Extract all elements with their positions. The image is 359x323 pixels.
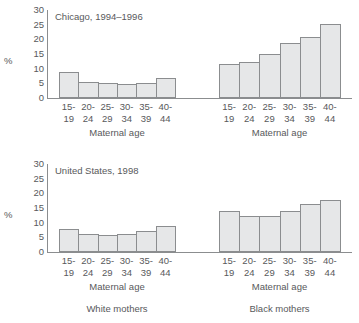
x-tick-label: 20-24 [78, 255, 97, 279]
group-caption-black-mothers: Black mothers [209, 304, 350, 314]
y-tick-10: 10 [33, 64, 44, 74]
x-tick-label: 15-19 [219, 101, 239, 125]
bar [98, 83, 118, 98]
bar-group-chicago-black [219, 10, 340, 98]
x-tick-label: 20-24 [239, 101, 259, 125]
x-tick-label: 25-29 [98, 255, 117, 279]
y-tick-15: 15 [33, 203, 44, 213]
y-tick-5: 5 [39, 79, 44, 89]
x-tick-label: 30-34 [117, 255, 136, 279]
x-tick-label: 35-39 [300, 101, 320, 125]
x-tick-labels-chicago-black: 15-19 20-24 25-29 30-34 35-39 40-44 [219, 101, 340, 127]
x-tick-label: 25-29 [259, 255, 279, 279]
y-axis-ticks-united-states: 30 25 20 15 10 5 0 [22, 164, 44, 252]
panel-title-united-states: United States, 1998 [55, 166, 138, 176]
bar [156, 78, 176, 98]
x-tick-label: 25-29 [98, 101, 117, 125]
x-tick-label: 25-29 [259, 101, 279, 125]
y-tick-30: 30 [33, 5, 44, 15]
plot-area-united-states: % 30 25 20 15 10 5 0 [0, 158, 359, 258]
bar [259, 216, 280, 252]
x-axis-caption-chicago-black: Maternal age [219, 128, 340, 138]
x-tick-label: 40-44 [320, 255, 340, 279]
x-tick-label: 35-39 [300, 255, 320, 279]
x-tick-label: 30-34 [280, 255, 300, 279]
bar [219, 64, 240, 98]
x-tick-label: 20-24 [239, 255, 259, 279]
bar [280, 211, 301, 252]
bar [59, 72, 79, 98]
plot-area-chicago: % 30 25 20 15 10 5 0 [0, 4, 359, 104]
bar [239, 62, 260, 98]
y-tick-25: 25 [33, 174, 44, 184]
y-tick-30: 30 [33, 159, 44, 169]
y-tick-0: 0 [39, 93, 44, 103]
chart-panel-united-states: % 30 25 20 15 10 5 0 [0, 158, 359, 321]
y-tick-5: 5 [39, 233, 44, 243]
bar [78, 82, 98, 98]
y-tick-0: 0 [39, 247, 44, 257]
x-axis-caption-us-black: Maternal age [219, 282, 340, 292]
bar [300, 204, 321, 252]
bar [156, 226, 176, 252]
y-axis-ticks-chicago: 30 25 20 15 10 5 0 [22, 10, 44, 98]
x-tick-labels-us-white: 15-19 20-24 25-29 30-34 35-39 40-44 [59, 255, 175, 281]
x-tick-label: 40-44 [156, 255, 175, 279]
chart-panel-chicago: % 30 25 20 15 10 5 0 [0, 4, 359, 152]
x-tick-label: 30-34 [280, 101, 300, 125]
x-tick-label: 35-39 [136, 101, 155, 125]
y-axis-label-percent: % [4, 56, 12, 66]
x-tick-label: 20-24 [78, 101, 97, 125]
bar [98, 235, 118, 252]
y-tick-10: 10 [33, 218, 44, 228]
x-tick-label: 15-19 [59, 101, 78, 125]
figure-teen-pregnancy-by-maternal-age: % 30 25 20 15 10 5 0 [0, 0, 359, 323]
x-tick-labels-chicago-white: 15-19 20-24 25-29 30-34 35-39 40-44 [59, 101, 175, 127]
x-tick-labels-us-black: 15-19 20-24 25-29 30-34 35-39 40-44 [219, 255, 340, 281]
y-tick-20: 20 [33, 35, 44, 45]
panel-title-chicago: Chicago, 1994–1996 [55, 12, 143, 22]
x-tick-label: 40-44 [320, 101, 340, 125]
x-tick-label: 35-39 [136, 255, 155, 279]
bar [259, 54, 280, 98]
bar-group-chicago-white [59, 10, 175, 98]
group-caption-white-mothers: White mothers [49, 304, 185, 314]
y-axis-label-percent: % [4, 210, 12, 220]
x-tick-label: 15-19 [59, 255, 78, 279]
bars-area-united-states [47, 164, 352, 252]
bars-area-chicago [47, 10, 352, 98]
bar [78, 234, 98, 252]
x-axis-line-united-states [47, 252, 352, 253]
bar [300, 37, 321, 98]
y-tick-20: 20 [33, 189, 44, 199]
bar [280, 43, 301, 98]
x-axis-caption-us-white: Maternal age [59, 282, 175, 292]
bar [320, 200, 341, 252]
x-tick-label: 30-34 [117, 101, 136, 125]
bar [136, 231, 156, 252]
x-axis-caption-chicago-white: Maternal age [59, 128, 175, 138]
x-tick-label: 40-44 [156, 101, 175, 125]
bar [117, 84, 137, 98]
bar [59, 229, 79, 252]
bar-group-us-white [59, 164, 175, 252]
bar [219, 211, 240, 252]
x-axis-line-chicago [47, 98, 352, 99]
bar [136, 83, 156, 98]
bar-group-us-black [219, 164, 340, 252]
bar [320, 24, 341, 98]
y-tick-25: 25 [33, 20, 44, 30]
x-tick-label: 15-19 [219, 255, 239, 279]
bar [117, 234, 137, 252]
y-tick-15: 15 [33, 49, 44, 59]
bar [239, 216, 260, 252]
